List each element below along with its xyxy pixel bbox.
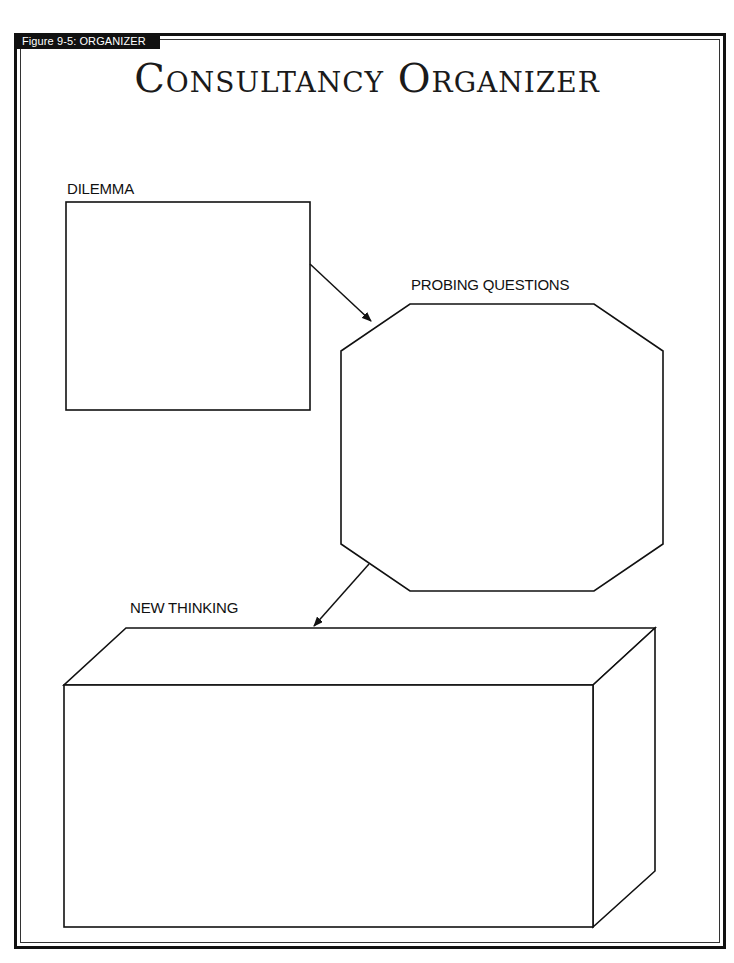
arrow-probing-to-new-thinking-icon xyxy=(314,564,369,626)
new-thinking-box[interactable] xyxy=(64,628,655,927)
organizer-diagram xyxy=(0,0,734,963)
dilemma-box[interactable] xyxy=(66,202,310,410)
box-top-face xyxy=(64,628,655,685)
arrow-dilemma-to-probing-icon xyxy=(310,264,371,321)
box-front-face xyxy=(64,685,593,927)
probing-questions-octagon[interactable] xyxy=(341,304,663,591)
